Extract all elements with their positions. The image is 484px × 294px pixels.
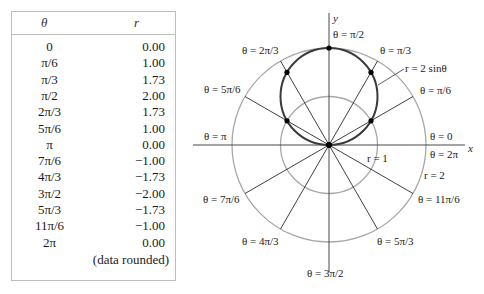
ray-label-0: θ = 0 (430, 130, 453, 142)
ray-label-pi: θ = π (204, 130, 227, 142)
polar-graph: y x r = 2 sinθ r = 1 r = 2 θ = 0 θ = 2π … (0, 0, 484, 294)
ray-label-5pi3: θ = 5π/3 (377, 235, 414, 247)
ray-7pi6 (245, 145, 329, 194)
ray-4pi3 (281, 145, 330, 229)
ray-label-11pi6: θ = 11π/6 (418, 193, 460, 205)
ray-label-pi3: θ = π/3 (380, 44, 412, 56)
ray-label-3pi2: θ = 3π/2 (307, 267, 344, 279)
ray-label-5pi6: θ = 5π/6 (204, 83, 241, 95)
point-pi2 (326, 45, 331, 50)
curve-label: r = 2 sinθ (405, 62, 447, 74)
ray-label-2pi: θ = 2π (430, 148, 458, 160)
ray-label-2pi3: θ = 2π/3 (242, 44, 279, 56)
circle-label-r1: r = 1 (367, 152, 388, 164)
point-pi3 (368, 70, 373, 75)
ray-label-4pi3: θ = 4π/3 (242, 235, 279, 247)
curve-label-leader (378, 69, 404, 85)
y-axis-label: y (332, 12, 338, 24)
x-axis-label: x (467, 142, 473, 154)
ray-label-7pi6: θ = 7π/6 (203, 193, 240, 205)
point-origin (326, 142, 332, 148)
point-5pi6 (284, 118, 289, 123)
ray-label-pi6: θ = π/6 (420, 84, 452, 96)
ray-label-pi2: θ = π/2 (333, 28, 364, 40)
point-pi6 (368, 118, 373, 123)
circle-label-r2: r = 2 (424, 169, 445, 181)
point-2pi3 (284, 70, 289, 75)
